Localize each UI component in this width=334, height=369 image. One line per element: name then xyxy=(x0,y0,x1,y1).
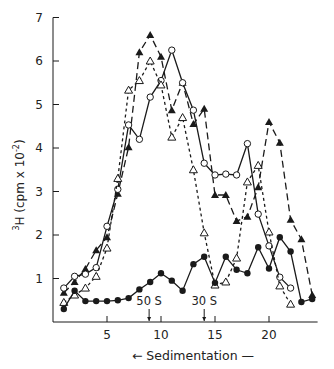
open-circle-marker xyxy=(255,211,261,217)
x-axis-label: ← Sedimentation — xyxy=(132,348,254,363)
open-triangle-marker xyxy=(254,161,262,168)
open-circle-marker xyxy=(115,186,121,192)
ylabel-exponent: -2 xyxy=(12,144,21,152)
y-tick-label: 3 xyxy=(35,185,43,199)
annotations: 50 S30 S xyxy=(136,294,217,321)
filled-circle-marker xyxy=(169,277,175,283)
filled-circle-marker xyxy=(309,296,315,302)
arrow-down-icon xyxy=(202,317,206,321)
marker-30s: 30 S xyxy=(191,294,217,321)
open-triangle-marker xyxy=(233,254,241,261)
filled-circle-marker xyxy=(255,244,261,250)
filled-circle-marker xyxy=(115,297,121,303)
filled-circle-marker xyxy=(158,270,164,276)
axes: 12345675101520 xyxy=(35,11,317,343)
open-triangle-marker xyxy=(92,272,100,279)
open-circle-marker xyxy=(125,122,131,128)
y-tick-label: 5 xyxy=(35,98,43,112)
filled-circle-marker xyxy=(287,248,293,254)
filled-triangle-marker xyxy=(146,31,154,38)
filled-circle-marker xyxy=(212,280,218,286)
open-circle-marker xyxy=(287,285,293,291)
y-tick-label: 4 xyxy=(35,141,43,155)
open-triangle-marker xyxy=(243,178,251,185)
open-circle-marker xyxy=(244,140,250,146)
filled-triangle-marker xyxy=(265,118,273,125)
filled-circle-marker xyxy=(244,270,250,276)
open-triangle-marker xyxy=(81,284,89,291)
filled-triangle-marker xyxy=(157,53,165,60)
filled-circle-marker xyxy=(190,261,196,267)
filled-circle-marker xyxy=(147,279,153,285)
y-tick-label: 2 xyxy=(35,228,43,242)
open-triangle-marker xyxy=(146,57,154,64)
filled-triangle-marker xyxy=(135,48,143,55)
open-triangle-marker xyxy=(189,166,197,173)
filled-triangle-marker xyxy=(211,191,219,198)
open-triangle-marker xyxy=(276,282,284,289)
filled-triangle-marker xyxy=(287,216,295,223)
open-circle-marker xyxy=(190,107,196,113)
filled-circle-marker xyxy=(233,267,239,273)
open-circle-marker xyxy=(104,223,110,229)
arrow-down-icon xyxy=(147,317,151,321)
filled-triangle-marker xyxy=(276,139,284,146)
filled-circle-marker xyxy=(61,306,67,312)
open-circle-marker xyxy=(136,136,142,142)
open-triangle-marker xyxy=(103,244,111,251)
ylabel-main: H (cpm x 10 xyxy=(13,152,27,225)
x-tick-label: 15 xyxy=(207,328,222,342)
open-circle-marker xyxy=(179,80,185,86)
y-axis-label: 3H (cpm x 10-2) xyxy=(12,139,27,230)
filled-triangle-marker xyxy=(297,235,305,242)
y-tick-label: 7 xyxy=(35,11,43,25)
filled-circle-marker xyxy=(298,299,304,305)
filled-circle-marker xyxy=(82,298,88,304)
open-circle-marker xyxy=(147,94,153,100)
open-triangle-marker xyxy=(265,228,273,235)
open-circle-marker xyxy=(233,172,239,178)
y-tick-label: 1 xyxy=(35,272,43,286)
filled-circle-marker xyxy=(104,298,110,304)
filled-circle-marker xyxy=(125,295,131,301)
filled-circle-marker xyxy=(136,286,142,292)
y-tick-label: 6 xyxy=(35,54,43,68)
marker-50s: 50 S xyxy=(136,294,162,321)
filled-triangle-marker xyxy=(243,213,251,220)
series-line xyxy=(64,35,312,295)
open-triangle-marker xyxy=(168,133,176,140)
sedimentation-chart: 12345675101520 50 S30 S 3H (cpm x 10-2) … xyxy=(0,0,334,369)
x-tick-label: 20 xyxy=(261,328,276,342)
filled-circle-marker xyxy=(277,234,283,240)
annotation-label: 50 S xyxy=(136,294,162,308)
ylabel-close: ) xyxy=(13,139,27,144)
open-triangle-marker xyxy=(200,229,208,236)
open-circle-marker xyxy=(169,47,175,53)
filled-triangle-marker xyxy=(200,105,208,112)
open-triangle-marker xyxy=(287,300,295,307)
open-circle-marker xyxy=(223,171,229,177)
x-tick-label: 10 xyxy=(153,328,168,342)
open-circle-marker xyxy=(82,271,88,277)
series-filled-circle xyxy=(61,234,316,312)
filled-circle-marker xyxy=(266,265,272,271)
filled-circle-marker xyxy=(71,287,77,293)
filled-circle-marker xyxy=(223,254,229,260)
filled-circle-marker xyxy=(93,298,99,304)
annotation-label: 30 S xyxy=(191,294,217,308)
filled-circle-marker xyxy=(201,254,207,260)
open-triangle-marker xyxy=(222,278,230,285)
filled-triangle-marker xyxy=(168,106,176,113)
open-circle-marker xyxy=(212,172,218,178)
open-circle-marker xyxy=(71,273,77,279)
x-tick-label: 5 xyxy=(103,328,111,342)
open-triangle-marker xyxy=(179,114,187,121)
open-circle-marker xyxy=(201,160,207,166)
series-layer xyxy=(60,31,316,312)
open-circle-marker xyxy=(61,285,67,291)
filled-circle-marker xyxy=(179,287,185,293)
